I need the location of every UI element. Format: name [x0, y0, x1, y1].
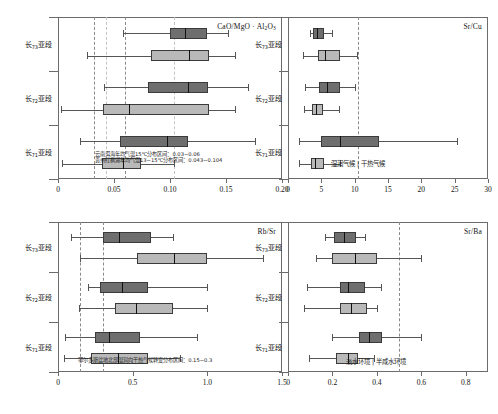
plot-frame	[288, 222, 488, 372]
whisker-cap	[316, 255, 317, 262]
y-axis-cap-tick	[279, 222, 288, 223]
boxplot-figure: CaO/MgO · Al2O300.050.100.150.20长73亚段长72…	[0, 0, 498, 414]
median-line	[348, 282, 349, 293]
box-iqr	[334, 232, 356, 243]
x-tick-label: 0.2	[312, 378, 352, 387]
box-iqr	[340, 303, 367, 314]
whisker-cap	[377, 305, 378, 312]
y-group-divider-tick	[279, 272, 288, 273]
y-group-divider-tick	[279, 322, 288, 323]
box-iqr	[359, 332, 382, 343]
whisker-cap	[332, 334, 333, 341]
x-tick-label: 0.6	[401, 378, 441, 387]
whisker-cap	[365, 234, 366, 241]
median-line	[351, 303, 352, 314]
whisker-cap	[421, 255, 422, 262]
x-tick	[466, 372, 467, 376]
panel-sr-ba: Sr/Ba00.20.40.60.8长73亚段长72亚段长71亚段淡水环境 | …	[0, 0, 498, 414]
y-axis-label-group-2: 长72亚段	[222, 292, 282, 302]
whisker-cap	[421, 334, 422, 341]
median-line	[355, 253, 356, 264]
x-tick-label: 0	[268, 378, 308, 387]
median-line	[369, 332, 370, 343]
box-iqr	[340, 282, 364, 293]
whisker-cap	[307, 284, 308, 291]
y-axis-label-group-3: 长73亚段	[222, 242, 282, 252]
x-tick	[377, 372, 378, 376]
whisker-cap	[304, 305, 305, 312]
panel-title: Sr/Ba	[464, 227, 482, 236]
x-tick	[332, 372, 333, 376]
x-tick-label: 0.4	[357, 378, 397, 387]
median-line	[344, 232, 345, 243]
x-tick	[288, 372, 289, 376]
panel-annotation: 淡水环境 | 半咸水环境	[346, 357, 406, 366]
whisker-cap	[325, 234, 326, 241]
whisker-cap	[309, 355, 310, 362]
whisker-cap	[381, 284, 382, 291]
x-tick	[421, 372, 422, 376]
reference-line	[399, 222, 400, 372]
x-tick-label: 0.8	[446, 378, 486, 387]
y-axis-cap-tick	[279, 372, 288, 373]
y-axis-label-group-1: 长71亚段	[222, 342, 282, 352]
